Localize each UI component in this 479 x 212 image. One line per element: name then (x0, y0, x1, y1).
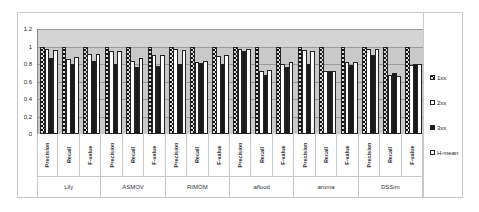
x-metric-label-cell: Recall (251, 134, 272, 176)
legend-label: 2xx (437, 100, 446, 106)
x-metric-label-cell: Recall (380, 134, 401, 176)
x-metric-label: F-value (409, 145, 415, 164)
y-tick-label: 0 (12, 131, 32, 137)
bar-h-mean (353, 62, 358, 134)
x-group-label: DSSim (359, 176, 423, 198)
legend-item: 1xx (430, 65, 470, 90)
bar-h-mean (332, 71, 337, 134)
bar-h-mean (375, 49, 380, 134)
bar-h-mean (203, 61, 208, 134)
x-metric-label-cell: Precision (166, 134, 187, 176)
x-metric-label: Precision (173, 143, 179, 168)
x-metric-label-cell: Precision (359, 134, 380, 176)
x-metric-label: Precision (366, 143, 372, 168)
legend-swatch-icon (430, 100, 435, 105)
x-metric-label: Precision (44, 143, 50, 168)
plot-area (37, 29, 423, 134)
bar-h-mean (417, 64, 422, 134)
x-metric-label: Recall (387, 147, 393, 163)
x-metric-label: F-value (87, 145, 93, 164)
bar-h-mean (267, 70, 272, 134)
bar-h-mean (96, 54, 101, 135)
x-metric-label-cell: F-value (337, 134, 358, 176)
legend-label: 3xx (437, 125, 446, 131)
bar-h-mean (182, 50, 187, 134)
x-metric-label-cell: Precision (230, 134, 251, 176)
legend-swatch-icon (430, 150, 435, 155)
bar-h-mean (224, 55, 229, 134)
x-metric-label-cell: F-value (144, 134, 165, 176)
x-metric-label: F-value (151, 145, 157, 164)
legend-item: H-mean (430, 140, 470, 165)
x-metric-label-cell: Precision (101, 134, 122, 176)
x-group-label: aroma (294, 176, 358, 198)
x-metric-label: F-value (216, 145, 222, 164)
bar-h-mean (160, 55, 165, 134)
bar-h-mean (310, 51, 315, 134)
x-metric-label-cell: F-value (402, 134, 423, 176)
x-group-label: aflood (230, 176, 294, 198)
bar-h-mean (139, 58, 144, 134)
x-metric-label-cell: F-value (209, 134, 230, 176)
legend-divider (423, 12, 424, 198)
x-metric-label: Precision (237, 143, 243, 168)
y-tick-label: 0.8 (12, 61, 32, 67)
x-metric-label: F-value (280, 145, 286, 164)
x-group-label: ASMOV (101, 176, 165, 198)
legend-item: 2xx (430, 90, 470, 115)
x-metric-label: Recall (323, 147, 329, 163)
x-metric-label-cell: Recall (316, 134, 337, 176)
gridline (38, 29, 423, 30)
x-metric-label: Recall (194, 147, 200, 163)
legend-item: 3xx (430, 115, 470, 140)
x-metric-label-cell: Precision (294, 134, 315, 176)
bar-h-mean (246, 49, 251, 134)
x-metric-label: Recall (259, 147, 265, 163)
x-metric-label: Precision (302, 143, 308, 168)
y-tick-label: 1.2 (12, 26, 32, 32)
bar-h-mean (74, 57, 79, 134)
y-tick-label: 0.4 (12, 96, 32, 102)
bar-h-mean (396, 76, 401, 134)
y-tick-label: 1 (12, 44, 32, 50)
x-metric-label-cell: Recall (187, 134, 208, 176)
upper-band (38, 29, 423, 47)
bar-h-mean (53, 50, 58, 134)
x-metric-label-cell: Precision (37, 134, 58, 176)
x-group-label: RIMOM (166, 176, 230, 198)
x-metric-label: Precision (109, 143, 115, 168)
x-metric-label: Recall (66, 147, 72, 163)
legend-label: 1xx (437, 75, 446, 81)
x-metric-label: Recall (130, 147, 136, 163)
x-group-label: Lily (37, 176, 101, 198)
y-tick-label: 0.6 (12, 79, 32, 85)
legend-swatch-icon (430, 75, 435, 80)
x-metric-label-cell: F-value (273, 134, 294, 176)
legend: 1xx2xx3xxH-mean (430, 65, 470, 165)
x-metric-label-cell: Recall (123, 134, 144, 176)
bar-h-mean (117, 51, 122, 134)
legend-label: H-mean (437, 150, 458, 156)
x-metric-label-cell: Recall (58, 134, 79, 176)
bar-h-mean (289, 62, 294, 134)
legend-swatch-icon (430, 125, 435, 130)
y-tick-label: 0.2 (12, 114, 32, 120)
x-metric-label: F-value (344, 145, 350, 164)
x-metric-label-cell: F-value (80, 134, 101, 176)
